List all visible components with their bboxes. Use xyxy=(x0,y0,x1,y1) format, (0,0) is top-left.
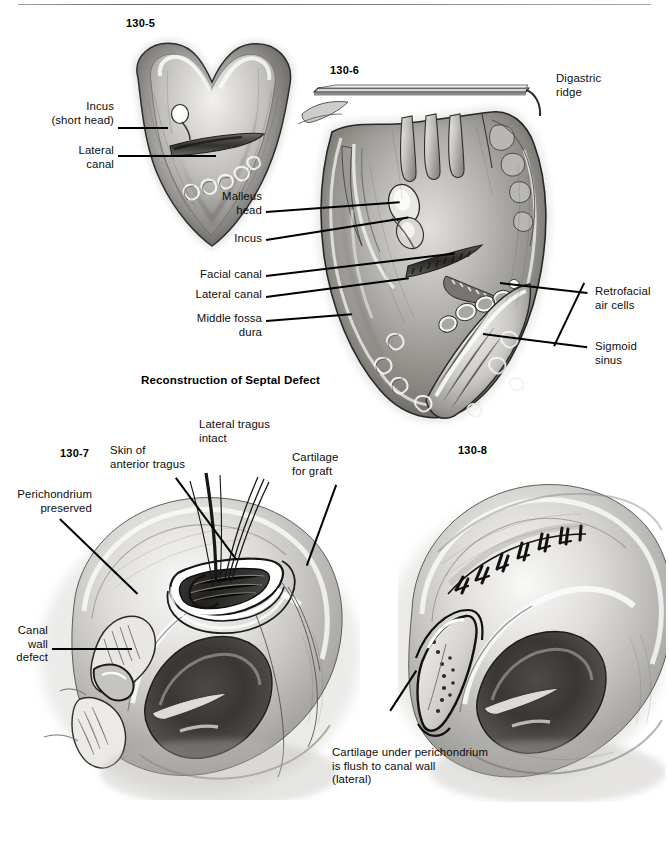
figure-number-130-8: 130-8 xyxy=(458,444,487,456)
label-perichondrium-preserved: Perichondrium preserved xyxy=(0,488,92,515)
label-digastric-ridge: Digastric ridge xyxy=(556,72,601,99)
label-incus-130-6: Incus xyxy=(184,232,262,246)
label-skin-of-anterior-tragus: Skin of anterior tragus xyxy=(110,444,185,471)
label-lateral-canal-130-5: Lateral canal xyxy=(0,144,114,171)
leader-incus-short-head xyxy=(118,127,168,129)
figure-number-130-6: 130-6 xyxy=(330,64,359,76)
label-incus-short-head: Incus (short head) xyxy=(0,100,114,127)
label-lateral-tragus-intact: Lateral tragus intact xyxy=(199,418,270,445)
label-retrofacial-air-cells: Retrofacial air cells xyxy=(595,285,651,312)
page-top-rule xyxy=(18,4,651,5)
leader-canal-wall-defect xyxy=(52,648,132,650)
label-lateral-canal-130-6: Lateral canal xyxy=(158,288,262,302)
section-title: Reconstruction of Septal Defect xyxy=(141,373,320,386)
label-cartilage-for-graft: Cartilage for graft xyxy=(292,451,339,478)
label-middle-fossa-dura: Middle fossa dura xyxy=(158,312,262,339)
label-malleus-head: Malleus head xyxy=(196,190,262,217)
leader-lateral-canal-130-5 xyxy=(118,155,216,157)
atlas-page: 130-5 Incus (short head) Lateral canal xyxy=(0,0,669,845)
figure-number-130-7: 130-7 xyxy=(60,447,89,459)
label-facial-canal: Facial canal xyxy=(158,268,262,282)
illustration-130-6 xyxy=(296,70,596,430)
illustration-130-5 xyxy=(108,30,324,260)
label-sigmoid-sinus: Sigmoid sinus xyxy=(595,340,637,367)
figure-number-130-5: 130-5 xyxy=(126,17,155,29)
label-canal-wall-defect: Canal wall defect xyxy=(0,624,48,665)
label-cartilage-under-perichondrium: Cartilage under perichondrium is flush t… xyxy=(332,746,488,787)
